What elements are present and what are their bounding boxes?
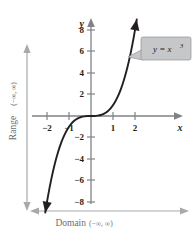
domain-arrow-head-left — [30, 207, 39, 214]
x-tick-label-1: 1 — [111, 123, 116, 133]
domain-indicator — [30, 207, 189, 214]
domain-label: Domain — [55, 218, 86, 228]
range-label: Range — [8, 116, 18, 140]
x-axis-arrow-head — [174, 112, 183, 120]
range-interval: (−∞, ∞) — [9, 82, 18, 106]
y-tick-label-2: 2 — [80, 89, 85, 99]
x-tick-label--2: −2 — [42, 123, 52, 133]
callout-equation: y = x — [152, 44, 172, 54]
y-tick-label-4: 4 — [80, 68, 85, 78]
y-tick-label--2: −2 — [74, 132, 84, 142]
range-arrow-head-bottom — [23, 202, 30, 211]
range-indicator — [23, 44, 30, 211]
y-axis — [87, 18, 95, 204]
y-axis-name: y — [79, 18, 85, 29]
curve-arrow-head-top — [130, 19, 139, 31]
domain-interval: (−∞, ∞) — [89, 219, 113, 228]
x-axis — [32, 112, 183, 120]
y-tick-label-6: 6 — [80, 46, 85, 56]
x-tick-label-2: 2 — [133, 123, 138, 133]
y-axis-arrow-head — [87, 18, 95, 27]
range-arrow-head-top — [23, 44, 30, 53]
domain-arrow-head-right — [180, 207, 189, 214]
equation-callout: y = x 3 — [128, 37, 191, 60]
cubic-function-figure: Range (−∞, ∞) Domain (−∞, ∞) — [0, 0, 194, 231]
range-label-group: Range (−∞, ∞) — [8, 82, 18, 140]
x-axis-name: x — [177, 122, 183, 133]
graph-canvas: Range (−∞, ∞) Domain (−∞, ∞) — [0, 0, 194, 231]
y-tick-label--4: −4 — [74, 154, 84, 164]
y-tick-label--6: −6 — [74, 175, 84, 185]
domain-label-group: Domain (−∞, ∞) — [55, 218, 113, 228]
y-tick-label--8: −8 — [74, 197, 84, 207]
